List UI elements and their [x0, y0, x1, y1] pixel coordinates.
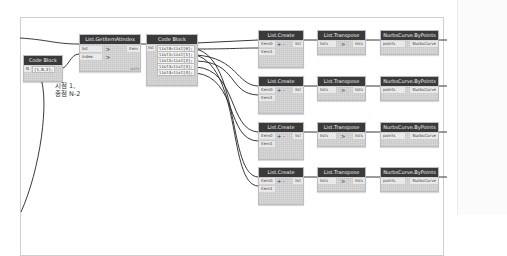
nurbscurve-bypoints-node[interactable]: NurbsCurve.ByPoints points > NurbsCurve	[380, 30, 439, 55]
add-input-button[interactable]: +	[277, 87, 281, 93]
input-port-item1[interactable]: item1	[259, 141, 275, 147]
chevron-icon: >	[106, 54, 110, 60]
annotation-line-2: 종점 N-2	[55, 90, 80, 98]
chevron-icon: >	[341, 41, 345, 47]
chevron-icon: >	[106, 46, 110, 52]
output-port-list[interactable]: list	[293, 41, 303, 47]
output-port-nurbscurve[interactable]: NurbsCurve	[410, 41, 438, 47]
node-title: List.Transpose	[318, 123, 365, 132]
remove-input-button[interactable]: -	[283, 178, 285, 184]
node-title: NurbsCurve.ByPoints	[381, 123, 438, 132]
input-port-list[interactable]: list	[147, 45, 155, 51]
node-title: Code Block	[147, 35, 197, 44]
input-port-item0[interactable]: item0	[259, 41, 275, 47]
input-port-lists[interactable]: lists	[318, 41, 336, 47]
node-title: List.GetItemAtIndex	[80, 35, 140, 44]
input-port-points[interactable]: points	[381, 178, 405, 184]
input-port-lists[interactable]: lists	[318, 87, 336, 93]
output-port-list[interactable]: list	[293, 133, 303, 139]
output-port-item[interactable]: item	[127, 46, 140, 52]
node-title: List.Create	[259, 31, 303, 40]
node-title: NurbsCurve.ByPoints	[381, 31, 438, 40]
input-port-points[interactable]: points	[381, 133, 405, 139]
input-port-points[interactable]: points	[381, 87, 405, 93]
chevron-icon: >	[341, 178, 345, 184]
lacing-indicator: AUTO	[131, 67, 139, 71]
add-input-button[interactable]: +	[277, 41, 281, 47]
chevron-icon: >	[341, 87, 345, 93]
input-port-lists[interactable]: lists	[318, 133, 336, 139]
annotation-note: 시점 1, 종점 N-2	[55, 82, 80, 98]
node-title: List.Transpose	[318, 77, 365, 86]
nurbscurve-bypoints-node[interactable]: NurbsCurve.ByPoints points > NurbsCurve	[380, 122, 439, 147]
output-port-lists[interactable]: lists	[353, 133, 365, 139]
code-input[interactable]: [1,N,2];	[32, 66, 55, 73]
list-create-node[interactable]: List.Create item0 + - item1 list	[258, 76, 304, 114]
list-transpose-node[interactable]: List.Transpose lists > lists	[317, 122, 366, 147]
code-line[interactable]: list4=list[4];	[157, 69, 195, 76]
output-port-lists[interactable]: lists	[353, 87, 365, 93]
input-port-item1[interactable]: item1	[259, 95, 275, 101]
node-title: NurbsCurve.ByPoints	[381, 77, 438, 86]
node-title: Code Block	[24, 56, 62, 65]
list-create-node[interactable]: List.Create item0 + - item1 list	[258, 30, 304, 68]
nurbscurve-bypoints-node[interactable]: NurbsCurve.ByPoints points > NurbsCurve	[380, 76, 439, 101]
chevron-icon: >	[341, 133, 345, 139]
remove-input-button[interactable]: -	[283, 87, 285, 93]
output-port-nurbscurve[interactable]: NurbsCurve	[410, 87, 438, 93]
input-port-lists[interactable]: lists	[318, 178, 336, 184]
list-transpose-node[interactable]: List.Transpose lists > lists	[317, 30, 366, 55]
list-transpose-node[interactable]: List.Transpose lists > lists	[317, 76, 366, 101]
node-title: NurbsCurve.ByPoints	[381, 168, 438, 177]
output-port-lists[interactable]: lists	[353, 178, 365, 184]
input-port-item0[interactable]: item0	[259, 87, 275, 93]
input-port-list[interactable]: list	[80, 46, 102, 52]
input-port-item1[interactable]: item1	[259, 49, 275, 55]
output-port-nurbscurve[interactable]: NurbsCurve	[410, 133, 438, 139]
list-create-node[interactable]: List.Create item0 + - item1 list	[258, 167, 304, 205]
code-block-node-main[interactable]: Code Block list list0=list[0]; list1=lis…	[146, 34, 198, 86]
node-title: List.Create	[259, 77, 303, 86]
node-title: List.Transpose	[318, 168, 365, 177]
input-port-index[interactable]: index	[80, 54, 102, 60]
input-port-item0[interactable]: item0	[259, 133, 275, 139]
add-input-button[interactable]: +	[277, 133, 281, 139]
list-create-node[interactable]: List.Create item0 + - item1 list	[258, 122, 304, 160]
remove-input-button[interactable]: -	[283, 133, 285, 139]
code-block-node-small[interactable]: Code Block N [1,N,2];	[23, 55, 63, 82]
input-port-points[interactable]: points	[381, 41, 405, 47]
output-port-lists[interactable]: lists	[353, 41, 365, 47]
output-port-nurbscurve[interactable]: NurbsCurve	[410, 178, 438, 184]
node-title: List.Transpose	[318, 31, 365, 40]
node-title: List.Create	[259, 168, 303, 177]
annotation-line-1: 시점 1,	[55, 82, 80, 90]
list-transpose-node[interactable]: List.Transpose lists > lists	[317, 167, 366, 192]
input-port-item0[interactable]: item0	[259, 178, 275, 184]
nurbscurve-bypoints-node[interactable]: NurbsCurve.ByPoints points > NurbsCurve	[380, 167, 439, 192]
remove-input-button[interactable]: -	[283, 41, 285, 47]
output-port-list[interactable]: list	[293, 87, 303, 93]
node-title: List.Create	[259, 123, 303, 132]
output-port-list[interactable]: list	[293, 178, 303, 184]
input-port-n[interactable]: N	[24, 66, 31, 72]
list-getitematindex-node[interactable]: List.GetItemAtIndex list > index > item …	[79, 34, 141, 72]
input-port-item1[interactable]: item1	[259, 186, 275, 192]
add-input-button[interactable]: +	[277, 178, 281, 184]
